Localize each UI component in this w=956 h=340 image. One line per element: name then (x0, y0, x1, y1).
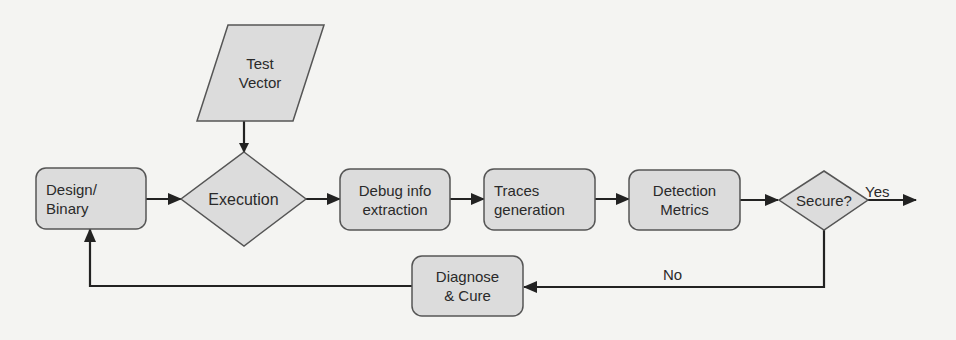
node-traces-shape (484, 169, 595, 230)
node-diagnose-shape (412, 256, 523, 316)
node-design-binary-shape (36, 168, 146, 229)
node-execution-shape (181, 152, 306, 246)
node-detection-shape (629, 170, 740, 230)
edge-label-no: No (663, 266, 682, 283)
edge-label-yes: Yes (865, 183, 889, 200)
flowchart-shapes (0, 0, 956, 340)
node-secure-shape (779, 171, 868, 230)
node-debug-info-shape (340, 169, 450, 230)
node-test-vector-shape (197, 25, 324, 121)
flowchart-canvas: Test Vector Design/ Binary Execution Deb… (0, 0, 956, 340)
